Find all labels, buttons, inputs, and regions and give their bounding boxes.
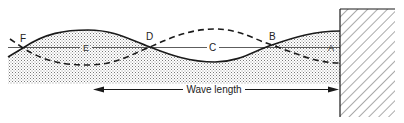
water-body <box>8 30 340 84</box>
label-f: F <box>20 33 26 44</box>
arrowhead-right-icon <box>328 87 339 93</box>
arrowhead-left-icon <box>93 87 104 93</box>
wall <box>340 9 395 117</box>
label-b: B <box>269 31 276 42</box>
wave-length-label: Wave length <box>186 84 241 95</box>
wave-length-arrow: Wave length <box>93 84 339 95</box>
label-c: C <box>209 42 216 53</box>
label-e: E <box>83 43 89 53</box>
label-d: D <box>146 31 153 42</box>
label-a: A <box>328 43 334 53</box>
standing-wave-diagram: F E D C B A Wave length <box>0 0 404 123</box>
